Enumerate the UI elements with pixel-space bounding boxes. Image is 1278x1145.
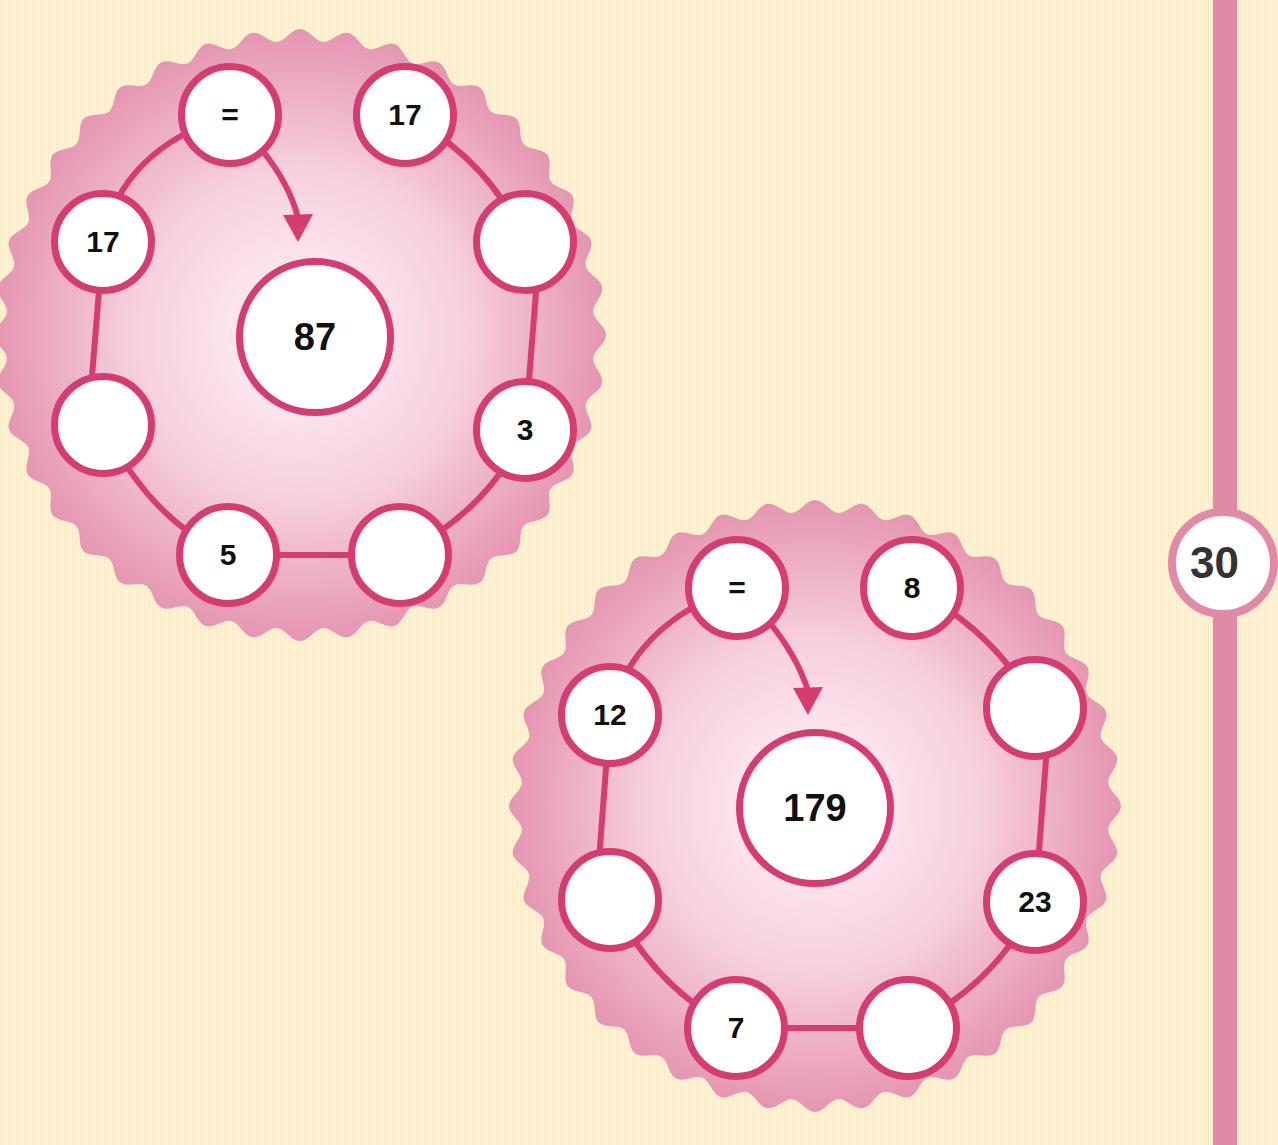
node-top-left: = (685, 536, 789, 640)
node-right-lower: 23 (983, 850, 1087, 954)
node-top-right: 17 (353, 63, 457, 167)
node-left-lower-blank[interactable] (51, 373, 155, 477)
node-top-left: = (178, 63, 282, 167)
node-right-lower: 3 (473, 378, 577, 482)
center-target: 179 (736, 729, 894, 887)
node-left-upper: 17 (51, 190, 155, 294)
node-bottom-left: 7 (684, 976, 788, 1080)
node-right-upper-blank[interactable] (983, 656, 1087, 760)
node-left-lower-blank[interactable] (558, 848, 662, 952)
node-right-upper-blank[interactable] (473, 190, 577, 294)
node-left-upper: 12 (558, 663, 662, 767)
puzzle-2: = 8 23 7 12 179 (508, 473, 1128, 1133)
node-bottom-right-blank[interactable] (856, 976, 960, 1080)
node-top-right: 8 (860, 536, 964, 640)
node-bottom-left: 5 (176, 503, 280, 607)
node-bottom-right-blank[interactable] (348, 503, 452, 607)
page-number-badge: 30 (1168, 508, 1278, 618)
center-target: 87 (236, 258, 394, 416)
